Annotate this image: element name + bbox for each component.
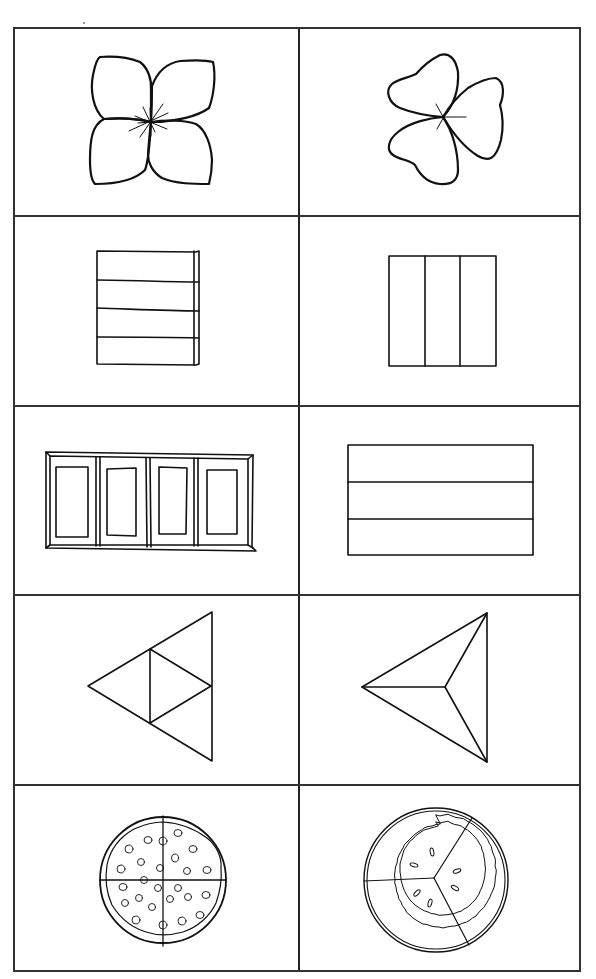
four-pane-window-icon <box>46 452 256 551</box>
pie-three-slices-icon <box>364 808 508 952</box>
pizza-quartered-icon <box>100 816 226 946</box>
drawings-layer <box>0 0 596 979</box>
square-horizontal-stripes-icon <box>97 251 199 365</box>
three-leaf-clover-icon <box>388 54 503 184</box>
rectangle-horizontal-thirds-icon <box>348 445 533 555</box>
triangle-three-from-center-icon <box>362 613 487 762</box>
square-vertical-thirds-icon <box>389 256 496 366</box>
triangle-four-subtriangles-icon <box>88 612 212 761</box>
